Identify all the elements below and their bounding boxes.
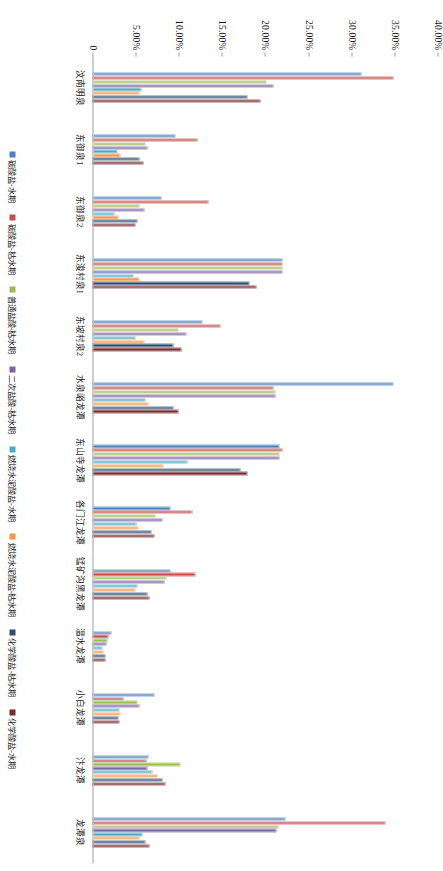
bar-group: 东御泉2 [92, 180, 437, 242]
bar [92, 759, 146, 762]
category-axis-label: 龙潭泉 [74, 818, 86, 845]
legend-label: 化学酸盐-水期 [6, 718, 18, 769]
value-axis-tick-label: 0 [87, 45, 97, 50]
bar [92, 390, 275, 393]
chart-stage: 05.00%10.00%15.00%20.00%25.00%30.00%35.0… [0, 0, 443, 871]
bar [92, 324, 220, 327]
bar [92, 514, 155, 517]
legend-item[interactable]: 化学酸盐-枯水期 [6, 629, 18, 697]
bar [92, 277, 139, 280]
bar [92, 270, 282, 273]
bar [92, 471, 247, 474]
bar [92, 836, 139, 839]
value-axis-tick-label: 20.00% [260, 20, 270, 51]
value-axis-tick-mark [92, 52, 93, 56]
value-axis-tick-mark [308, 52, 309, 56]
bar [92, 340, 144, 343]
bar [92, 828, 276, 831]
bar [92, 134, 175, 137]
bar [92, 654, 105, 657]
bar-group: 东山寺龙潭 [92, 428, 437, 490]
bar [92, 534, 154, 537]
value-axis-tick-label: 40.00% [432, 20, 442, 51]
bar [92, 572, 196, 575]
bar [92, 569, 170, 572]
bar [92, 638, 107, 641]
legend-item[interactable]: 燃烧水泥酸盐-枯水期 [6, 533, 18, 617]
legend-item[interactable]: 二次盐酸-枯水期 [6, 366, 18, 434]
bar-group: 温水龙潭 [92, 615, 437, 677]
bar [92, 274, 133, 277]
category-axis-label: 东御泉1 [74, 133, 86, 164]
bar-group: 锰矿沟黑龙潭 [92, 553, 437, 615]
legend-label: 燃烧水泥酸盐-枯水期 [6, 542, 18, 617]
bar [92, 576, 166, 579]
bar-group: 东坡村泉2 [92, 304, 437, 366]
bar [92, 138, 197, 141]
bar [92, 526, 138, 529]
bar [92, 91, 139, 94]
bar [92, 398, 145, 401]
bar [92, 700, 137, 703]
bar [92, 219, 137, 222]
category-axis-label: 锰矿沟黑龙潭 [74, 557, 86, 611]
bar [92, 347, 181, 350]
category-axis-label: 温水龙潭 [74, 628, 86, 664]
legend-item[interactable]: 燃烧水泥酸盐-水期 [6, 446, 18, 522]
value-axis-tick-mark [394, 52, 395, 56]
bar [92, 386, 273, 389]
legend-label: 碳酸盐-枯水期 [6, 223, 18, 274]
bar [92, 200, 208, 203]
legend-swatch-icon [9, 214, 15, 220]
bar [92, 782, 165, 785]
value-axis-tick-label: 35.00% [389, 20, 399, 51]
bar [92, 146, 147, 149]
bar [92, 592, 147, 595]
legend-swatch-icon [9, 533, 15, 539]
bar [92, 634, 108, 637]
bar [92, 406, 173, 409]
legend-item[interactable]: 碳酸盐-水期 [6, 151, 18, 203]
bar [92, 697, 123, 700]
plot-area: 05.00%10.00%15.00%20.00%25.00%30.00%35.0… [92, 56, 437, 863]
bar [92, 840, 145, 843]
category-axis-label: 东山寺龙潭 [74, 437, 86, 482]
legend-item[interactable]: 碳酸盐-枯水期 [6, 214, 18, 274]
bar [92, 825, 278, 828]
value-axis-tick-label: 10.00% [173, 20, 183, 51]
bar [92, 650, 103, 653]
value-axis-tick-mark [178, 52, 179, 56]
legend-swatch-icon [9, 709, 15, 715]
bar [92, 262, 282, 265]
bar [92, 452, 279, 455]
bar [92, 382, 393, 385]
bar [92, 212, 114, 215]
category-axis-label: 小白龙潭 [74, 690, 86, 726]
legend-swatch-icon [9, 151, 15, 157]
bar [92, 258, 282, 261]
value-axis-tick-mark [437, 52, 438, 56]
category-axis-label: 东浚村泉1 [74, 253, 86, 293]
bar [92, 580, 164, 583]
bar [92, 588, 135, 591]
bar [92, 336, 135, 339]
chart-legend: 碳酸盐-水期碳酸盐-枯水期普通盐酸-枯水期二次盐酸-枯水期燃烧水泥酸盐-水期燃烧… [6, 56, 18, 863]
bar [92, 530, 151, 533]
bar [92, 518, 162, 521]
bar [92, 693, 154, 696]
bar [92, 712, 120, 715]
legend-item[interactable]: 普通盐酸-枯水期 [6, 286, 18, 354]
bar-group: 龙潭泉 [92, 801, 437, 863]
bar [92, 281, 249, 284]
bar [92, 766, 147, 769]
legend-swatch-icon [9, 629, 15, 635]
bar [92, 522, 136, 525]
bar-group: 汴龙潭 [92, 739, 437, 801]
bar [92, 343, 173, 346]
legend-item[interactable]: 化学酸盐-水期 [6, 709, 18, 769]
bar [92, 266, 282, 269]
bar [92, 844, 149, 847]
category-axis-label: 东坡村泉2 [74, 315, 86, 355]
bar [92, 320, 202, 323]
bar [92, 596, 149, 599]
